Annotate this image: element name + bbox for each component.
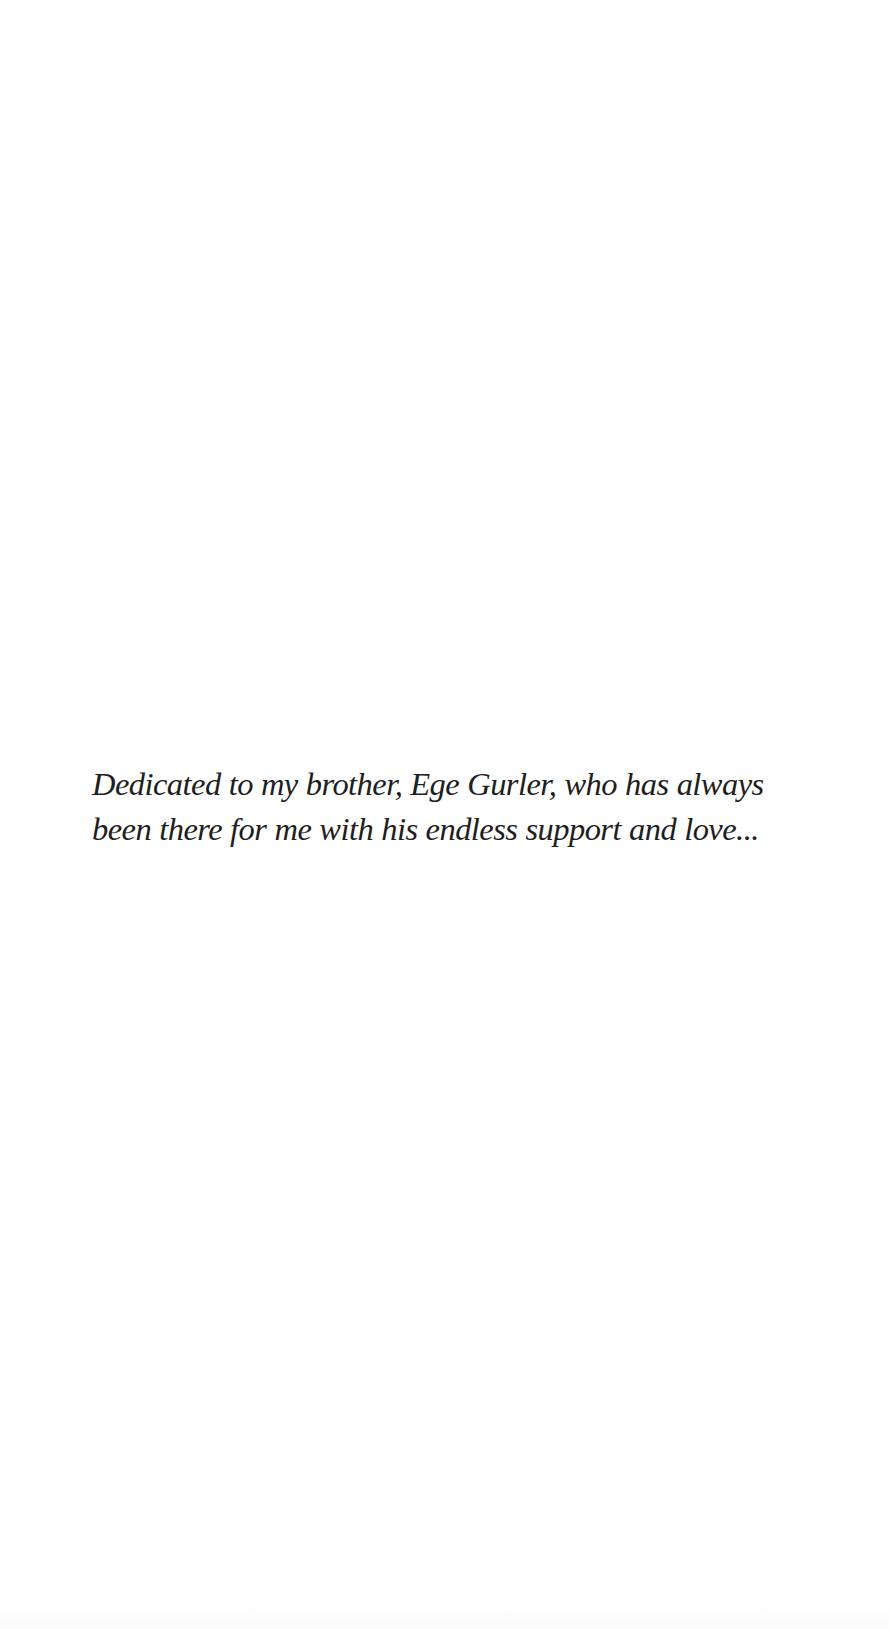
dedication-text: Dedicated to my brother, Ege Gurler, who… <box>92 762 812 852</box>
dedication-line-2: been there for me with his endless suppo… <box>92 807 812 852</box>
dedication-line-1: Dedicated to my brother, Ege Gurler, who… <box>92 762 812 807</box>
book-page: Dedicated to my brother, Ege Gurler, who… <box>0 0 889 1629</box>
